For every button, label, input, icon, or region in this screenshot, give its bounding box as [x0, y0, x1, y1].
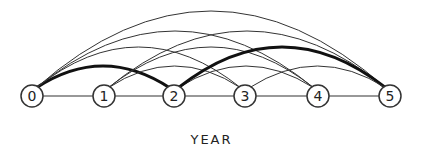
node-label: 2 [170, 88, 179, 104]
node-1: 1 [93, 85, 115, 107]
node-label: 4 [314, 88, 323, 104]
node-label: 3 [241, 88, 250, 104]
edge-0-4 [36, 31, 314, 88]
node-0: 0 [21, 85, 43, 107]
node-label: 0 [28, 88, 37, 104]
node-label: 1 [100, 88, 109, 104]
node-label: 5 [386, 88, 395, 104]
node-4: 4 [307, 85, 329, 107]
edge-1-5 [108, 31, 386, 88]
node-3: 3 [234, 85, 256, 107]
highlighted-edge-2-5 [178, 47, 386, 88]
node-5: 5 [379, 85, 401, 107]
node-2: 2 [163, 85, 185, 107]
edge-0-5 [36, 11, 386, 88]
year-network-diagram: 012345 [0, 0, 423, 130]
axis-label-year: YEAR [0, 132, 423, 147]
